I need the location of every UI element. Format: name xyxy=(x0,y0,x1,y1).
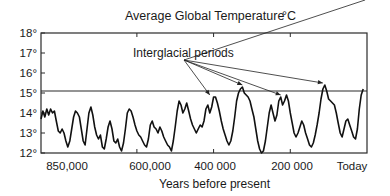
y-tick-label: 17° xyxy=(20,47,37,59)
arrowhead-icon xyxy=(318,80,323,84)
y-tick-label: 16° xyxy=(20,67,37,79)
x-tick-label: 200 000 xyxy=(271,160,313,172)
x-tick-label: 600,000 xyxy=(129,160,171,172)
arrowhead-icon xyxy=(275,91,280,95)
chart-container: Average Global Temperature °C 18°17°16°1… xyxy=(0,0,390,196)
x-tick-label: Today xyxy=(337,160,368,172)
x-tick-label: 400 000 xyxy=(194,160,236,172)
x-axis-title: Years before present xyxy=(159,177,271,191)
y-tick-label: 12° xyxy=(20,147,37,159)
y-tick-label: 14° xyxy=(20,107,37,119)
unit-label: °C xyxy=(282,9,296,23)
annotation-arrow xyxy=(184,60,323,83)
x-tick-label: 850,000 xyxy=(46,160,88,172)
annotation-label: Interglacial periods xyxy=(133,46,234,60)
temperature-chart: Average Global Temperature °C 18°17°16°1… xyxy=(0,0,390,196)
y-tick-label: 15° xyxy=(20,87,37,99)
y-tick-label: 18° xyxy=(20,27,37,39)
temperature-curve xyxy=(41,85,363,153)
chart-title: Average Global Temperature xyxy=(125,9,284,23)
y-tick-label: 13° xyxy=(20,127,37,139)
annotation-arrow xyxy=(184,60,281,95)
